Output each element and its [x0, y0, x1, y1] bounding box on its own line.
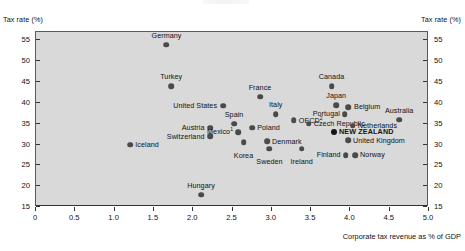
data-point	[241, 140, 247, 146]
y-axis-tick-right	[423, 60, 427, 61]
x-axis-tick-label: 1.5	[140, 213, 166, 222]
y-axis-tick-right	[423, 81, 427, 82]
data-point	[299, 146, 305, 152]
footnote-marker: 1	[230, 126, 233, 132]
y-axis-tick-label-right: 40	[434, 98, 456, 107]
x-axis-tick	[389, 207, 390, 211]
x-axis-tick	[74, 207, 75, 211]
data-points-layer: GermanyTurkeyUnited StatesFranceCanadaJa…	[36, 32, 427, 205]
data-point-label: Hungary	[187, 182, 215, 189]
y-axis-tick-label-left: 35	[8, 119, 30, 128]
x-axis-tick	[35, 207, 36, 211]
data-point-label: Spain	[225, 111, 244, 118]
x-axis-tick	[192, 207, 193, 211]
x-axis-tick	[428, 207, 429, 211]
data-point	[128, 142, 134, 148]
y-axis-tick-label-right: 50	[434, 56, 456, 65]
y-axis-tick-left	[36, 81, 40, 82]
data-point	[198, 192, 204, 198]
y-axis-tick-left	[36, 144, 40, 145]
data-point-label: United States	[173, 102, 217, 109]
y-axis-tick-left	[36, 164, 40, 165]
data-point-label: Austria	[182, 124, 205, 131]
y-axis-tick-label-left: 40	[8, 98, 30, 107]
y-axis-tick-right	[423, 123, 427, 124]
y-axis-tick-label-left: 20	[8, 181, 30, 190]
y-axis-tick-label-right: 35	[434, 119, 456, 128]
y-axis-tick-label-left: 30	[8, 140, 30, 149]
data-point-label: Iceland	[135, 141, 159, 148]
y-axis-tick-right	[423, 144, 427, 145]
data-point	[220, 103, 226, 109]
x-axis-tick	[232, 207, 233, 211]
data-point	[331, 129, 337, 135]
x-axis-tick-label: 4.0	[336, 213, 362, 222]
right-axis-title: Tax rate (%)	[421, 15, 461, 24]
y-axis-tick-right	[423, 185, 427, 186]
data-point	[333, 102, 339, 108]
x-axis-tick-label: 0.5	[61, 213, 87, 222]
data-point-label: NEW ZEALAND	[339, 128, 394, 135]
y-axis-tick-left	[36, 123, 40, 124]
data-point-label: United Kingdom	[353, 137, 405, 144]
y-axis-tick-left	[36, 185, 40, 186]
y-axis-tick-right	[423, 164, 427, 165]
x-axis-tick-label: 1.0	[101, 213, 127, 222]
data-point-label: France	[249, 84, 272, 91]
y-axis-tick-label-right: 45	[434, 77, 456, 86]
y-axis-tick-label-left: 50	[8, 56, 30, 65]
x-axis-tick	[271, 207, 272, 211]
x-axis-tick	[349, 207, 350, 211]
x-axis-tick-label: 3.5	[297, 213, 323, 222]
data-point	[329, 83, 335, 89]
data-point-label: Ireland	[290, 158, 312, 165]
y-axis-tick-right	[423, 206, 427, 207]
data-point-label: Turkey	[160, 73, 182, 80]
x-axis-tick-label: 5.0	[415, 213, 441, 222]
top-crop-artifact	[203, 0, 249, 4]
data-point-label: Germany	[152, 32, 182, 39]
y-axis-tick-right	[423, 102, 427, 103]
data-point	[273, 111, 279, 117]
data-point	[342, 111, 348, 117]
y-axis-tick-right	[423, 39, 427, 40]
data-point-label: Norway	[360, 151, 385, 158]
data-point-label: Denmark	[272, 138, 302, 145]
y-axis-tick-label-right: 55	[434, 35, 456, 44]
data-point	[249, 125, 255, 131]
y-axis-tick-left	[36, 102, 40, 103]
y-axis-tick-label-right: 30	[434, 140, 456, 149]
x-axis-label: Corporate tax revenue as % of GDP	[343, 232, 461, 241]
data-point-label: Finland	[317, 151, 341, 158]
data-point	[343, 152, 349, 158]
y-axis-tick-label-left: 55	[8, 35, 30, 44]
data-point	[291, 118, 297, 124]
data-point	[345, 104, 351, 110]
x-axis-tick-label: 0	[22, 213, 48, 222]
data-point-label: Australia	[385, 107, 413, 114]
left-axis-title: Tax rate (%)	[3, 15, 43, 24]
y-axis-tick-label-right: 15	[434, 202, 456, 211]
data-point	[267, 146, 273, 152]
x-axis-tick	[153, 207, 154, 211]
data-point-label: Switzerland	[167, 133, 205, 140]
x-axis-tick-label: 3.0	[258, 213, 284, 222]
data-point-label: Korea	[234, 152, 253, 159]
data-point-label: Canada	[319, 73, 344, 80]
data-point-label: Mexico1	[207, 128, 233, 135]
plot-area: GermanyTurkeyUnited StatesFranceCanadaJa…	[35, 31, 428, 206]
data-point-label: Belgium	[354, 103, 380, 110]
x-axis-tick-label: 2.0	[179, 213, 205, 222]
data-point	[257, 94, 263, 100]
data-point	[164, 42, 170, 48]
x-axis-tick-label: 2.5	[219, 213, 245, 222]
y-axis-tick-label-left: 15	[8, 202, 30, 211]
data-point	[352, 152, 358, 158]
data-point-label: Poland	[257, 124, 280, 131]
data-point	[306, 121, 312, 127]
data-point	[235, 129, 241, 135]
data-point	[396, 117, 402, 123]
data-point	[345, 138, 351, 144]
y-axis-tick-left	[36, 60, 40, 61]
data-point-label: Sweden	[256, 158, 282, 165]
